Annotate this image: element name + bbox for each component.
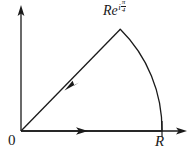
radius-endpoint-label: R <box>155 134 164 149</box>
contour-figure: 0 R Reiπ4 <box>0 0 193 158</box>
contour-diagonal-line <box>21 29 120 131</box>
apex-label-exponent-fraction: π4 <box>121 0 126 15</box>
apex-label-exponent-denominator: 4 <box>121 7 126 14</box>
apex-label-base: Re <box>103 3 118 18</box>
imaginary-axis <box>18 5 25 131</box>
contour-real-segment <box>21 127 162 135</box>
apex-label: Reiπ4 <box>103 4 126 20</box>
contour-diagonal-segment <box>21 29 120 131</box>
origin-label: 0 <box>8 133 16 148</box>
contour-circular-arc <box>120 29 162 131</box>
contour-direction-arrow-down-left-icon <box>65 81 80 91</box>
